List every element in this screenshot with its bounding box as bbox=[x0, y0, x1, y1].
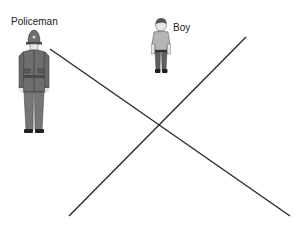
boy-figure bbox=[152, 18, 171, 73]
line-a bbox=[50, 49, 290, 216]
diagram-canvas bbox=[0, 0, 302, 232]
policeman-figure bbox=[19, 30, 49, 133]
